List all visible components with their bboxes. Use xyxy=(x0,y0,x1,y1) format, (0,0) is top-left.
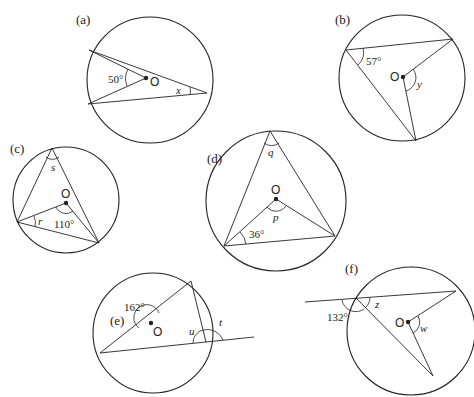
chord-f-left xyxy=(356,298,433,376)
diagram-a: (a) O 50° x xyxy=(76,12,213,143)
angle-e-162: 162° xyxy=(124,301,145,313)
radius-d-right xyxy=(276,199,335,236)
angle-f-w: w xyxy=(420,322,428,334)
center-label-f: O xyxy=(395,316,404,330)
circle-f xyxy=(347,267,474,395)
angle-a-50: 50° xyxy=(108,73,123,85)
diagram-a-label: (a) xyxy=(76,12,90,27)
diagram-e: (e) O 162° u t xyxy=(93,273,254,393)
angle-arc-f-z xyxy=(365,297,370,308)
angle-c-s: s xyxy=(51,161,55,173)
radius-b-bottom xyxy=(403,77,416,141)
angle-d-36: 36° xyxy=(249,228,264,240)
circle-theorem-diagrams: (a) O 50° x (b) O 57° y (c) O xyxy=(0,0,474,397)
angle-c-110: 110° xyxy=(54,218,75,230)
radius-f-top xyxy=(408,291,456,322)
diagram-c-label: (c) xyxy=(10,141,24,156)
angle-f-132: 132° xyxy=(327,311,348,323)
angle-f-z: z xyxy=(374,298,380,310)
center-label-d: O xyxy=(271,183,280,197)
diagram-b: (b) O 57° y xyxy=(335,12,465,141)
diagram-b-label: (b) xyxy=(335,12,350,27)
angle-e-t: t xyxy=(219,316,223,328)
center-label-b: O xyxy=(390,70,399,84)
angle-arc-b-57 xyxy=(358,48,364,65)
diagram-c: (c) O s r 110° xyxy=(10,141,119,253)
angle-d-p: p xyxy=(272,211,279,223)
angle-d-q: q xyxy=(268,146,274,158)
center-label-e: O xyxy=(153,325,162,339)
diagram-d: (d) O q p 36° xyxy=(206,131,346,271)
angle-a-x: x xyxy=(175,84,181,96)
angle-e-u: u xyxy=(189,325,195,337)
radius-b-top xyxy=(403,39,453,77)
center-dot-b xyxy=(401,75,405,79)
angle-arc-c-r xyxy=(34,216,35,227)
chord-a-bottom xyxy=(88,93,207,104)
center-dot-f xyxy=(406,320,410,324)
angle-arc-a-50 xyxy=(126,69,128,86)
angle-c-r: r xyxy=(38,215,43,227)
center-dot-d xyxy=(274,197,278,201)
center-dot-a xyxy=(144,76,148,80)
line-e-extended xyxy=(100,337,254,353)
chord-a-top xyxy=(89,50,207,93)
center-label-c: O xyxy=(61,187,70,201)
diagram-f: (f) O 132° z w xyxy=(305,261,474,395)
line-f-extended xyxy=(305,291,456,302)
diagram-f-label: (f) xyxy=(345,261,358,276)
chord-b-top xyxy=(346,39,453,50)
angle-arc-d-36 xyxy=(240,232,246,244)
center-dot-c xyxy=(64,201,68,205)
diagram-e-label: (e) xyxy=(110,313,124,328)
angle-b-y: y xyxy=(416,78,422,90)
angle-arc-f-132 xyxy=(342,300,364,312)
center-label-a: O xyxy=(150,75,159,89)
angle-b-57: 57° xyxy=(366,55,381,67)
angle-arc-b-y xyxy=(406,69,416,91)
chord-d-bottom xyxy=(224,236,335,246)
